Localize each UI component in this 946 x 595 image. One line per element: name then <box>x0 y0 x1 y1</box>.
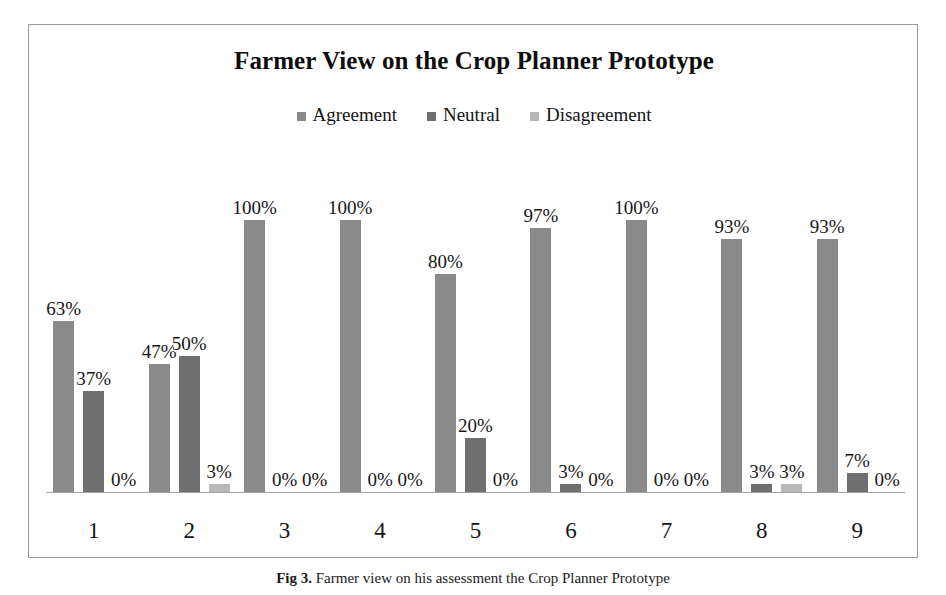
x-axis-tick-labels: 123456789 <box>29 518 919 558</box>
bar-value-label: 0% <box>654 470 679 489</box>
figure-caption: Fig 3. Farmer view on his assessment the… <box>0 570 946 595</box>
bar-group: 100%0%0% <box>619 220 714 492</box>
figure-container: Farmer View on the Crop Planner Prototyp… <box>0 0 946 595</box>
bar-value-label: 0% <box>302 470 327 489</box>
bar-slot: 7% <box>842 220 872 492</box>
bar-slot: 100% <box>335 220 365 492</box>
bar-value-label: 0% <box>111 470 136 489</box>
bar-slot: 0% <box>270 220 300 492</box>
plot-area: 63%37%0%47%50%3%100%0%0%100%0%0%80%20%0%… <box>29 25 919 559</box>
bar-slot: 0% <box>365 220 395 492</box>
bar-agreement[interactable]: 100% <box>626 220 647 492</box>
bar-value-label: 0% <box>875 470 900 489</box>
bar-neutral[interactable]: 3% <box>560 484 581 492</box>
bar-slot: 100% <box>621 220 651 492</box>
bar-value-label: 3% <box>558 462 583 481</box>
bar-value-label: 0% <box>272 470 297 489</box>
bar-group: 47%50%3% <box>141 220 236 492</box>
bar-agreement[interactable]: 47% <box>149 364 170 492</box>
chart-frame: Farmer View on the Crop Planner Prototyp… <box>28 24 918 558</box>
x-tick-6: 6 <box>541 518 601 544</box>
caption-prefix: Fig 3. <box>276 570 312 586</box>
bar-value-label: 0% <box>588 470 613 489</box>
bar-slot: 93% <box>812 220 842 492</box>
bar-neutral[interactable]: 50% <box>179 356 200 492</box>
bar-value-label: 50% <box>172 334 207 353</box>
bar-disagreement[interactable]: 3% <box>209 484 230 492</box>
bar-value-label: 100% <box>232 198 276 217</box>
bar-slot: 3% <box>204 220 234 492</box>
bar-slot: 0% <box>872 220 902 492</box>
bar-agreement[interactable]: 93% <box>817 239 838 492</box>
bar-value-label: 7% <box>845 451 870 470</box>
bar-value-label: 100% <box>328 198 372 217</box>
bar-slot: 0% <box>681 220 711 492</box>
bar-agreement[interactable]: 100% <box>340 220 361 492</box>
bar-value-label: 93% <box>714 217 749 236</box>
bar-agreement[interactable]: 63% <box>53 321 74 492</box>
bar-slot: 37% <box>79 220 109 492</box>
bar-group: 63%37%0% <box>46 220 141 492</box>
x-tick-7: 7 <box>636 518 696 544</box>
bar-value-label: 80% <box>428 252 463 271</box>
bar-value-label: 0% <box>397 470 422 489</box>
x-axis-line <box>46 492 905 493</box>
bar-value-label: 3% <box>749 462 774 481</box>
bar-group: 93%3%3% <box>714 220 809 492</box>
bar-slot: 80% <box>430 220 460 492</box>
bar-group: 80%20%0% <box>428 220 523 492</box>
bar-neutral[interactable]: 37% <box>83 391 104 492</box>
bar-slot: 50% <box>174 220 204 492</box>
x-tick-1: 1 <box>64 518 124 544</box>
bar-value-label: 20% <box>458 416 493 435</box>
bar-group: 100%0%0% <box>237 220 332 492</box>
bar-value-label: 97% <box>524 206 559 225</box>
bar-slot: 0% <box>490 220 520 492</box>
bar-group: 100%0%0% <box>332 220 427 492</box>
bar-agreement[interactable]: 93% <box>721 239 742 492</box>
bar-slot: 0% <box>300 220 330 492</box>
bar-slot: 0% <box>651 220 681 492</box>
bar-value-label: 93% <box>810 217 845 236</box>
bar-agreement[interactable]: 97% <box>530 228 551 492</box>
bar-slot: 3% <box>777 220 807 492</box>
bar-slot: 93% <box>717 220 747 492</box>
bar-agreement[interactable]: 80% <box>435 274 456 492</box>
bar-group: 93%7%0% <box>810 220 905 492</box>
bar-value-label: 63% <box>46 299 81 318</box>
bar-neutral[interactable]: 20% <box>465 438 486 492</box>
bar-slot: 47% <box>144 220 174 492</box>
bar-slot: 0% <box>395 220 425 492</box>
bar-agreement[interactable]: 100% <box>244 220 265 492</box>
x-tick-2: 2 <box>159 518 219 544</box>
caption-text: Farmer view on his assessment the Crop P… <box>316 570 670 586</box>
x-tick-4: 4 <box>350 518 410 544</box>
bar-value-label: 37% <box>76 369 111 388</box>
x-tick-8: 8 <box>732 518 792 544</box>
bar-value-label: 100% <box>614 198 658 217</box>
x-tick-5: 5 <box>446 518 506 544</box>
bar-slot: 97% <box>526 220 556 492</box>
bar-slot: 3% <box>747 220 777 492</box>
bar-disagreement[interactable]: 3% <box>781 484 802 492</box>
bar-slot: 20% <box>460 220 490 492</box>
bar-group: 97%3%0% <box>523 220 618 492</box>
bar-slot: 63% <box>49 220 79 492</box>
bar-slot: 0% <box>586 220 616 492</box>
bar-value-label: 0% <box>684 470 709 489</box>
bar-value-label: 3% <box>779 462 804 481</box>
x-tick-3: 3 <box>255 518 315 544</box>
bar-slot: 3% <box>556 220 586 492</box>
bar-slot: 100% <box>240 220 270 492</box>
bar-neutral[interactable]: 7% <box>847 473 868 492</box>
bar-value-label: 0% <box>367 470 392 489</box>
bar-slot: 0% <box>109 220 139 492</box>
bar-value-label: 0% <box>493 470 518 489</box>
bar-value-label: 3% <box>206 462 231 481</box>
bar-neutral[interactable]: 3% <box>751 484 772 492</box>
x-tick-9: 9 <box>827 518 887 544</box>
